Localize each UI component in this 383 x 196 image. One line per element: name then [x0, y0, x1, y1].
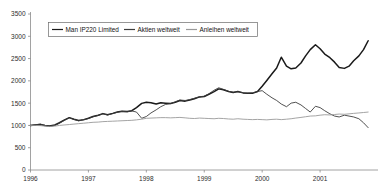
y-axis: 0500100015002000250030003500 [11, 10, 30, 173]
x-axis: 199619971998199920002001 [23, 170, 378, 182]
y-tick-label: 500 [15, 144, 26, 151]
series-line-2 [31, 112, 369, 126]
chart-legend: Man IP220 LimitedAktien weltweitAnleihen… [49, 23, 258, 37]
y-tick-label: 1000 [11, 122, 26, 129]
x-tick-label: 1999 [197, 175, 212, 182]
x-tick-label: 1997 [81, 175, 96, 182]
y-tick-label: 3000 [11, 33, 26, 40]
x-tick-label: 2001 [313, 175, 328, 182]
series-layer [31, 41, 369, 128]
chart-canvas: 0500100015002000250030003500 19961997199… [0, 0, 383, 196]
legend-label-2: Anleihen weltweit [200, 26, 250, 33]
y-tick-label: 1500 [11, 100, 26, 107]
x-tick-label: 1998 [139, 175, 154, 182]
y-tick-label: 2500 [11, 55, 26, 62]
y-tick-label: 3500 [11, 10, 26, 17]
x-tick-label: 1996 [23, 175, 38, 182]
series-line-0 [31, 41, 369, 126]
series-line-1 [31, 88, 369, 128]
y-tick-label: 2000 [11, 77, 26, 84]
line-chart: 0500100015002000250030003500 19961997199… [0, 0, 383, 196]
legend-label-0: Man IP220 Limited [66, 26, 120, 33]
legend-label-1: Aktien weltweit [138, 26, 180, 33]
y-tick-label: 0 [22, 166, 26, 173]
x-tick-label: 2000 [255, 175, 270, 182]
